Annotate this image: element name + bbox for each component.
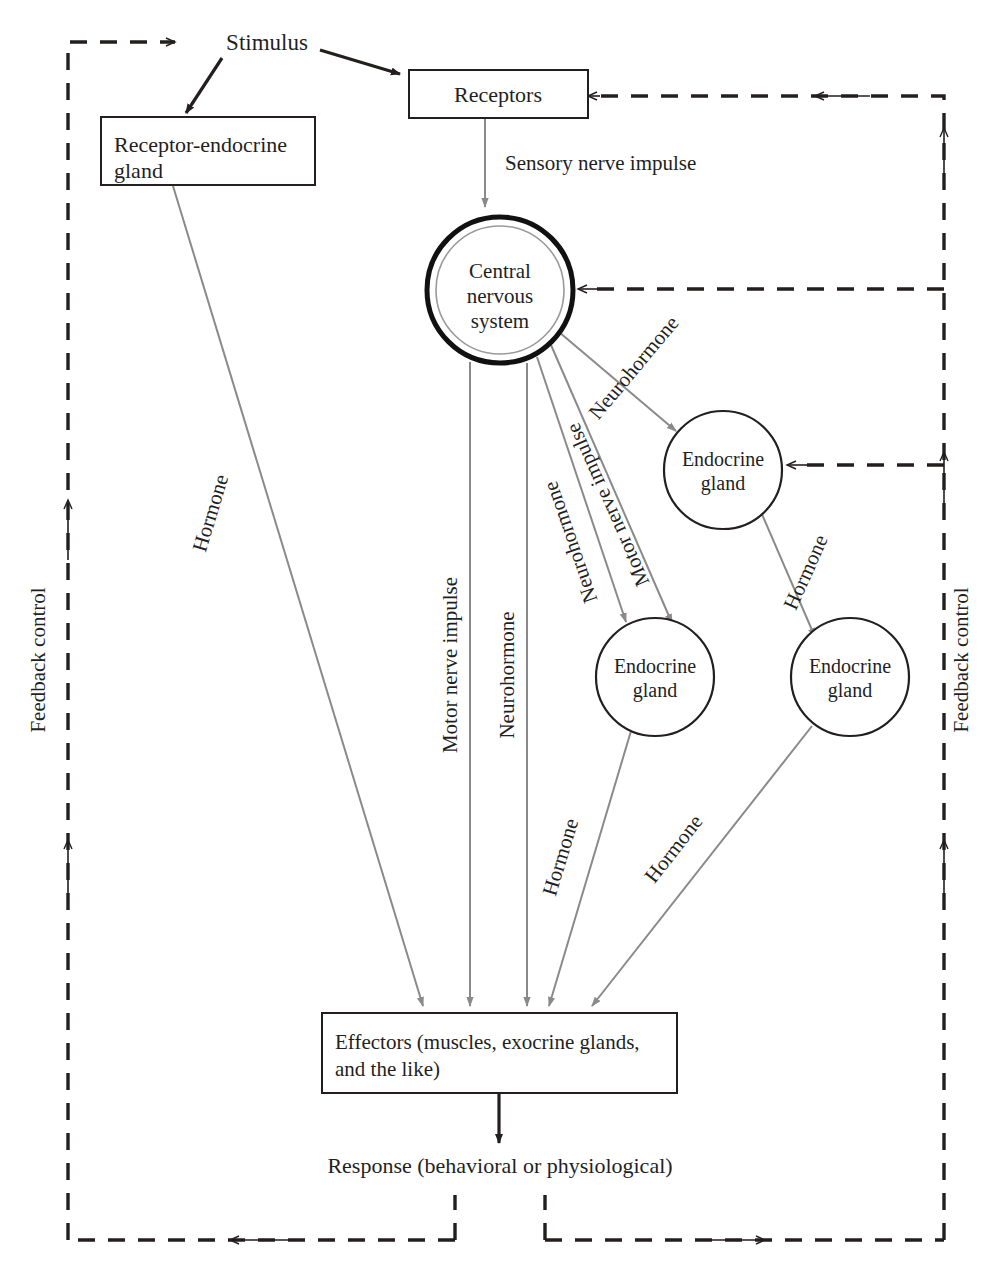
- node-endocrine-gland-lower-left[interactable]: Endocrine gland: [596, 618, 714, 736]
- stimulus-label: Stimulus: [226, 30, 308, 55]
- endocrine-gland-lower-right-label-line2: gland: [828, 679, 872, 702]
- endocrine-gland-top-label-line2: gland: [701, 472, 745, 495]
- label-neurohormone-to-effectors: Neurohormone: [495, 611, 519, 738]
- label-hormone-lower-left-gland-to-effectors: Hormone: [537, 816, 583, 899]
- diagram-svg: Receptor-endocrine gland Receptors Effec…: [0, 0, 1001, 1277]
- feedback-left-path: [68, 42, 175, 1240]
- endocrine-gland-lower-left-label-line2: gland: [633, 679, 677, 702]
- line-hormone-lower-right-gland-to-effectors: [592, 726, 812, 1006]
- endocrine-gland-top-label-line1: Endocrine: [682, 448, 764, 470]
- response-label: Response (behavioral or physiological): [327, 1153, 672, 1178]
- line-hormone-receptor-endocrine-to-effectors: [173, 186, 423, 1006]
- label-feedback-control-right: Feedback control: [949, 587, 973, 732]
- receptors-label: Receptors: [454, 82, 542, 107]
- endocrine-gland-lower-right-circle[interactable]: [791, 618, 909, 736]
- label-sensory-nerve-impulse: Sensory nerve impulse: [505, 151, 696, 175]
- label-motor-nerve-impulse-to-effectors: Motor nerve impulse: [438, 577, 462, 753]
- endocrine-gland-lower-left-circle[interactable]: [596, 618, 714, 736]
- effectors-label-line2: and the like): [335, 1057, 440, 1081]
- arrow-stimulus-to-receptor-endocrine-gland: [186, 58, 222, 113]
- endocrine-gland-lower-right-label-line1: Endocrine: [809, 655, 891, 677]
- receptor-endocrine-gland-label-line2: gland: [114, 158, 163, 183]
- stimulus-arrows: [186, 50, 400, 113]
- cns-label-line1: Central: [469, 259, 531, 283]
- node-endocrine-gland-top[interactable]: Endocrine gland: [664, 411, 782, 529]
- endocrine-gland-lower-left-label-line1: Endocrine: [614, 655, 696, 677]
- cns-label-line3: system: [471, 309, 529, 333]
- node-receptors[interactable]: Receptors: [409, 70, 588, 118]
- node-endocrine-gland-lower-right[interactable]: Endocrine gland: [791, 618, 909, 736]
- effectors-label-line1: Effectors (muscles, exocrine glands,: [335, 1030, 640, 1054]
- label-hormone-receptor-endocrine-to-effectors: Hormone: [187, 472, 233, 555]
- node-central-nervous-system[interactable]: Central nervous system: [427, 217, 573, 363]
- receptor-endocrine-gland-label-line1: Receptor-endocrine: [114, 132, 287, 157]
- arrow-stimulus-to-receptors: [320, 50, 400, 74]
- diagram-canvas: Receptor-endocrine gland Receptors Effec…: [0, 0, 1001, 1277]
- cns-label-line2: nervous: [467, 284, 534, 308]
- label-hormone-lower-right-gland-to-effectors: Hormone: [640, 810, 708, 887]
- node-receptor-endocrine-gland[interactable]: Receptor-endocrine gland: [101, 117, 315, 185]
- label-feedback-control-left: Feedback control: [26, 587, 50, 732]
- node-effectors[interactable]: Effectors (muscles, exocrine glands, and…: [322, 1013, 677, 1093]
- label-neurohormone-to-top-gland: Neurohormone: [584, 311, 684, 424]
- endocrine-gland-top-circle[interactable]: [664, 411, 782, 529]
